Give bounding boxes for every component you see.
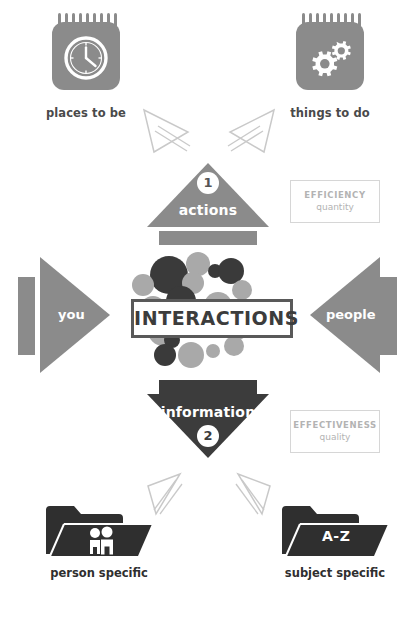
subject-specific-label: subject specific: [266, 566, 404, 580]
outbound-arrow-right-icon: [218, 470, 280, 522]
people-label: people: [326, 307, 376, 322]
efficiency-metric-box: EFFICIENCY quantity: [290, 180, 380, 223]
notepad-gears-icon: [296, 22, 364, 90]
bubble: [232, 280, 252, 300]
actions-triangle: 1 actions: [147, 163, 269, 227]
information-label: information: [147, 404, 269, 420]
people-arrow-tail: [380, 277, 397, 355]
actions-bar: [159, 231, 257, 245]
effectiveness-metric-box: EFFECTIVENESS quality: [290, 410, 380, 453]
bubble: [206, 344, 220, 358]
bubble: [178, 342, 204, 368]
inbound-arrow-left-icon: [138, 104, 204, 162]
actions-label: actions: [147, 202, 269, 218]
effectiveness-subtitle: quality: [291, 432, 379, 442]
information-triangle: information 2: [147, 394, 269, 458]
subject-specific-group: A-Z subject specific: [280, 500, 390, 566]
notepad-clock-icon: [52, 22, 120, 90]
effectiveness-title: EFFECTIVENESS: [291, 420, 379, 430]
information-bar: [159, 380, 257, 394]
actions-number-badge: 1: [197, 172, 219, 194]
person-specific-label: person specific: [34, 566, 164, 580]
diagram-canvas: places to be things to do: [0, 0, 417, 621]
interactions-title: INTERACTIONS: [131, 299, 293, 338]
things-to-do-label: things to do: [278, 106, 382, 120]
inbound-arrow-right-icon: [214, 104, 280, 162]
efficiency-subtitle: quantity: [291, 202, 379, 212]
efficiency-title: EFFICIENCY: [291, 190, 379, 200]
az-badge: A-Z: [322, 528, 350, 544]
bubble: [132, 274, 154, 296]
you-arrow-tail: [18, 277, 35, 355]
bubble: [154, 344, 176, 366]
gears-icon: [296, 22, 364, 90]
you-label: you: [58, 307, 85, 322]
information-number-badge: 2: [197, 425, 219, 447]
clock-icon: [52, 22, 120, 90]
places-to-be-label: places to be: [34, 106, 138, 120]
person-specific-group: person specific: [44, 500, 154, 566]
folder-people-icon: [44, 500, 154, 562]
bubble: [224, 336, 244, 356]
